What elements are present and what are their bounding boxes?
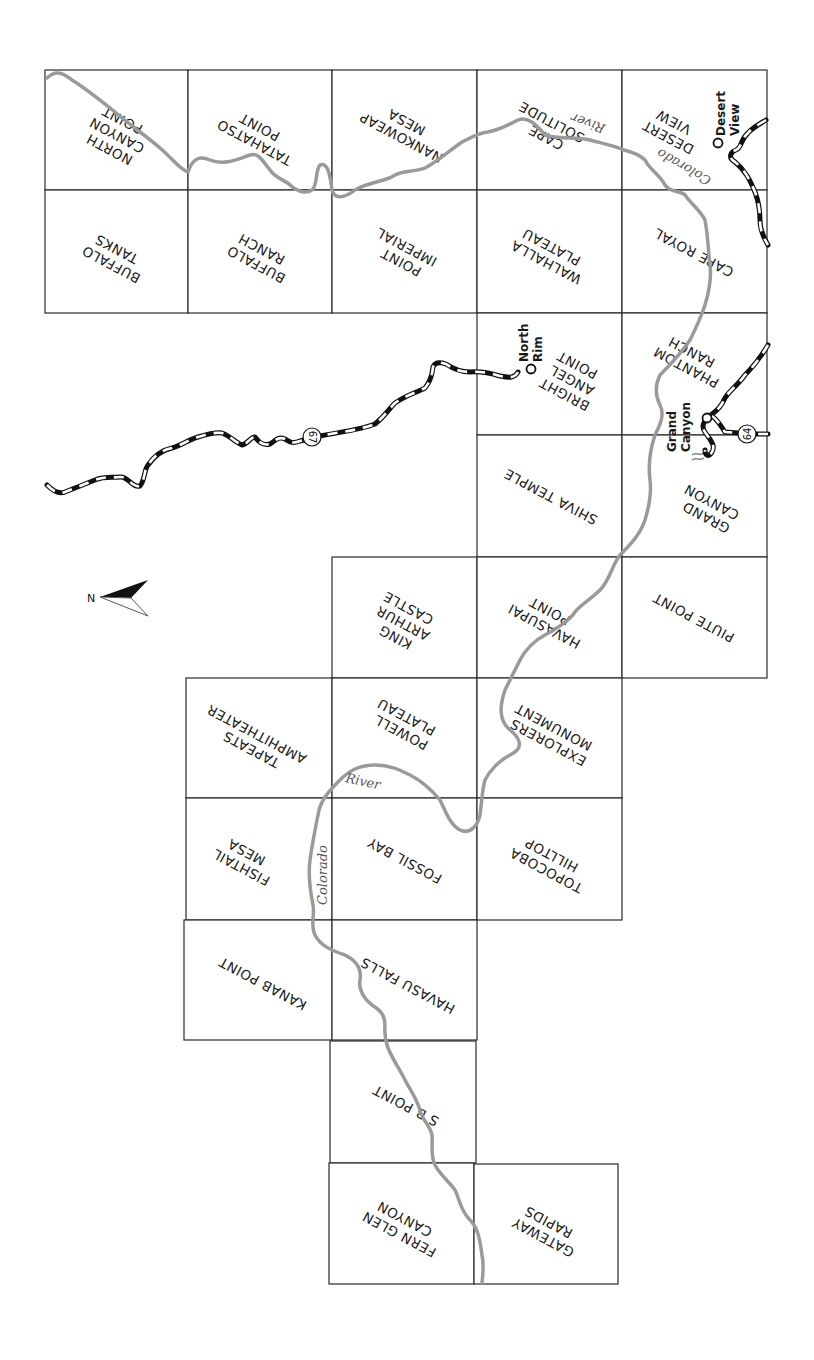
tile-walhalla-plateau[interactable]: WALHALLA PLATEAU: [477, 190, 622, 313]
svg-text:N: N: [87, 592, 95, 605]
location-marker-icon: [527, 365, 536, 374]
north-arrow-icon: N: [87, 580, 148, 616]
route-64-shield: 64: [738, 425, 756, 443]
location-marker-icon: [703, 414, 712, 423]
tile-kanab-point[interactable]: KANAB POINT: [184, 920, 332, 1040]
tile-point-imperial[interactable]: POINT IMPERIAL: [332, 190, 477, 313]
tile-fossil-bay[interactable]: FOSSIL BAY: [332, 798, 477, 920]
tile-buffalo-ranch[interactable]: BUFFALO RANCH: [188, 190, 332, 313]
tile-north-canyon-point[interactable]: NORTH CANYON POINT: [45, 70, 188, 190]
tile-tapeats-amphitheater[interactable]: TAPEATS AMPHITHEATER: [186, 678, 332, 798]
tile-fern-glen-canyon[interactable]: FERN GLEN CANYON: [329, 1163, 474, 1284]
tile-buffalo-tanks[interactable]: BUFFALO TANKS: [45, 190, 188, 313]
tile-topocoba-hilltop[interactable]: TOPOCOBA HILLTOP: [477, 798, 622, 920]
svg-text:67: 67: [307, 431, 318, 444]
route-67-shield: 67: [303, 428, 321, 446]
svg-text:Grand Canyon: Grand Canyon: [665, 402, 693, 452]
tile-gateway-rapids[interactable]: GATEWAY RAPIDS: [474, 1164, 618, 1284]
tile-havasupai-point[interactable]: HAVASUPAI POINT: [477, 557, 622, 678]
tile-king-arthur-castle[interactable]: KING ARTHUR CASTLE: [332, 557, 477, 678]
tile-havasu-falls[interactable]: HAVASU FALLS: [332, 920, 477, 1040]
tile-tatahatso-point[interactable]: TATAHATSO POINT: [188, 70, 332, 190]
tile-shiva-temple[interactable]: SHIVA TEMPLE: [477, 435, 622, 557]
tile-sb-point[interactable]: S B POINT: [330, 1041, 476, 1163]
tile-explorers-monument[interactable]: EXPLORERS MONUMENT: [477, 678, 622, 798]
tile-piute-point[interactable]: PIUTE POINT: [622, 557, 767, 678]
svg-text:64: 64: [742, 428, 753, 441]
route-67-road: [47, 363, 518, 493]
location-marker-icon: [714, 139, 723, 148]
river-label-colorado-south: Colorado: [315, 845, 330, 905]
tile-grand-canyon[interactable]: GRAND CANYON: [622, 435, 767, 557]
tile-grid: NORTH CANYON POINT TATAHATSO POINT NANKO…: [45, 70, 767, 1284]
quadrangle-index-map: NORTH CANYON POINT TATAHATSO POINT NANKO…: [0, 0, 814, 1360]
